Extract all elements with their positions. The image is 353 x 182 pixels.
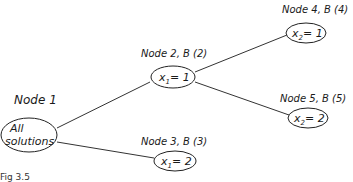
node-3: Node 3, B (3) x1= 2 bbox=[141, 136, 207, 171]
edge-node2-node4 bbox=[195, 35, 287, 72]
edge-node1-node2 bbox=[57, 82, 150, 128]
svg-text:x2= 2: x2= 2 bbox=[293, 112, 325, 127]
node-3-val: = 2 bbox=[172, 155, 192, 168]
node-5-title: Node 5, B (5) bbox=[280, 93, 346, 104]
node-2: Node 2, B (2) x1= 1 bbox=[141, 48, 207, 88]
node-1: Node 1 All solutions bbox=[1, 93, 57, 152]
node-3-title: Node 3, B (3) bbox=[141, 136, 207, 147]
edge-node2-node5 bbox=[195, 82, 289, 115]
node-1-content-line2: solutions bbox=[5, 135, 55, 148]
node-2-title: Node 2, B (2) bbox=[141, 48, 207, 59]
tree-diagram: Node 1 All solutions Node 2, B (2) x1= 1… bbox=[0, 0, 353, 182]
node-1-title: Node 1 bbox=[14, 93, 57, 107]
svg-text:x1= 1: x1= 1 bbox=[158, 71, 190, 86]
node-4-title: Node 4, B (4) bbox=[282, 4, 348, 15]
node-4: Node 4, B (4) x2= 1 bbox=[282, 4, 348, 43]
node-5: Node 5, B (5) x2= 2 bbox=[280, 93, 346, 128]
edge-node1-node3 bbox=[57, 142, 154, 158]
figure-caption: Fig 3.5 bbox=[0, 172, 30, 182]
svg-text:x2= 1: x2= 1 bbox=[291, 27, 323, 42]
svg-text:x1= 2: x1= 2 bbox=[160, 155, 192, 170]
node-4-val: = 1 bbox=[303, 27, 323, 40]
node-5-val: = 2 bbox=[305, 112, 325, 125]
node-1-content-line1: All bbox=[9, 122, 24, 135]
node-2-val: = 1 bbox=[170, 71, 190, 84]
